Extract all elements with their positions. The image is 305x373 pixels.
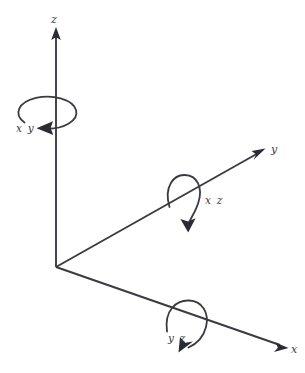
xz-rotation-label: x z: [205, 194, 223, 206]
y-axis: [56, 149, 266, 268]
x-axis-label: x: [291, 343, 298, 356]
xz-rotation-arrowhead: [180, 218, 195, 232]
y-axis-arrowhead: [252, 149, 266, 160]
xy-rotation-label: x y: [16, 122, 35, 134]
xz-rotation-loop-path: [168, 175, 200, 224]
xz-rotation-arc: [168, 175, 200, 233]
z-axis: [51, 27, 61, 267]
y-axis-label: y: [270, 143, 278, 156]
z-axis-label: z: [50, 13, 57, 26]
y-axis-line: [56, 154, 258, 268]
x-axis-arrowhead: [274, 342, 289, 352]
rotation-axes-diagram: z y x x y x z y z: [0, 0, 305, 373]
diagram-canvas: z y x x y x z y z: [0, 0, 305, 373]
yz-rotation-label: y z: [167, 332, 186, 344]
yz-rotation-arc: [167, 300, 207, 352]
